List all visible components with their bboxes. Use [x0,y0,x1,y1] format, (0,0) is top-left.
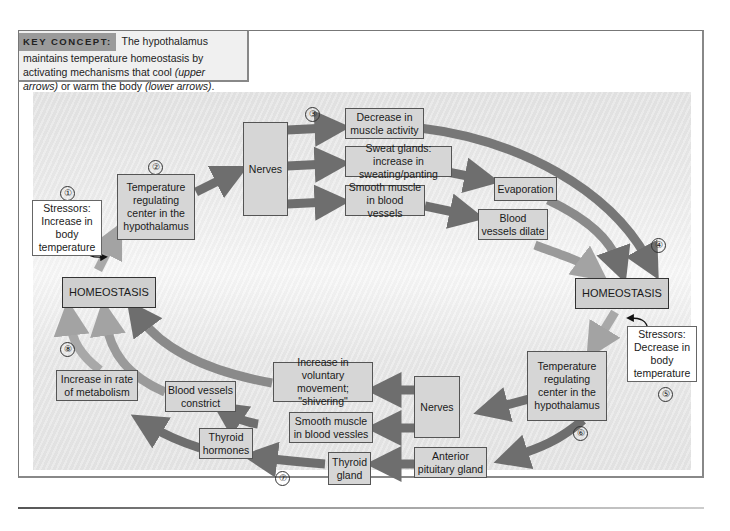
nerves-lower-label: Nerves [420,401,453,414]
homeostasis-right-box: HOMEOSTASIS [575,278,669,309]
step-number-1: ① [60,186,75,201]
temp-center-upper-label: Temperature regulating center in the hyp… [120,181,192,233]
anterior-pituitary-box: Anterior pituitary gland [414,447,487,478]
temp-center-lower-box: Temperature regulating center in the hyp… [527,351,607,421]
smooth-muscle-lower-box: Smooth muscle in blood vessles [289,412,373,443]
stressor-increase-box: Stressors: Increase in body temperature [32,200,102,256]
smooth-muscle-upper-box: Smooth muscle in blood vessels [345,185,425,216]
thyroid-hormones-box: Thyroid hormones [199,428,253,459]
nerves-upper-box: Nerves [243,122,288,216]
nerves-lower-box: Nerves [414,376,460,438]
muscle-activity-box: Decrease in muscle activity [345,108,424,139]
key-concept-box: KEY CONCEPT:The hypothalamus maintains t… [18,30,249,82]
homeostasis-left-label: HOMEOSTASIS [69,286,149,299]
evaporation-box: Evaporation [494,177,557,201]
step-number-2: ② [148,160,163,175]
smooth-muscle-lower-label: Smooth muscle in blood vessles [292,415,370,441]
shivering-label: Increase in voluntary movement; "shiveri… [276,356,370,408]
thyroid-gland-box: Thyroid gland [328,452,371,485]
homeostasis-left-box: HOMEOSTASIS [62,277,156,308]
lower-arrows-note: (lower arrows) [145,80,212,92]
step-number-5: ⑤ [658,387,673,402]
blood-vessels-constrict-label: Blood vessels constrict [168,384,233,410]
step-number-8: ⑧ [60,342,75,357]
metabolism-label: Increase in rate of metabolism [59,373,135,399]
anterior-pituitary-label: Anterior pituitary gland [417,450,484,476]
key-concept-label: KEY CONCEPT: [19,33,116,51]
step-number-6: ⑥ [573,426,588,441]
shivering-box: Increase in voluntary movement; "shiveri… [273,362,373,402]
step-number-4: ④ [651,238,666,253]
thyroid-hormones-label: Thyroid hormones [202,431,250,457]
homeostasis-right-label: HOMEOSTASIS [582,287,662,300]
metabolism-box: Increase in rate of metabolism [56,370,138,401]
stressor-decrease-box: Stressors: Decrease in body temperature [627,326,697,382]
muscle-activity-label: Decrease in muscle activity [348,111,421,137]
step-number-7: ⑦ [275,471,290,486]
sweat-glands-box: Sweat glands: increase in sweating/panti… [345,146,452,177]
key-concept-text-2: or warm the body [58,80,145,92]
sweat-glands-label: Sweat glands: increase in sweating/panti… [348,142,449,181]
stressor-decrease-label: Stressors: Decrease in body temperature [630,328,694,380]
blood-vessels-constrict-box: Blood vessels constrict [165,381,236,412]
evaporation-label: Evaporation [497,183,553,196]
nerves-upper-label: Nerves [249,163,282,176]
temp-center-lower-label: Temperature regulating center in the hyp… [530,360,604,412]
thyroid-gland-label: Thyroid gland [331,456,368,482]
key-concept-end: . [211,80,214,92]
temp-center-upper-box: Temperature regulating center in the hyp… [117,174,195,240]
blood-vessels-dilate-box: Blood vessels dilate [478,209,548,240]
blood-vessels-dilate-label: Blood vessels dilate [481,212,545,238]
step-number-3: ③ [305,107,320,122]
smooth-muscle-upper-label: Smooth muscle in blood vessels [348,181,422,220]
stressor-increase-label: Stressors: Increase in body temperature [35,202,99,254]
